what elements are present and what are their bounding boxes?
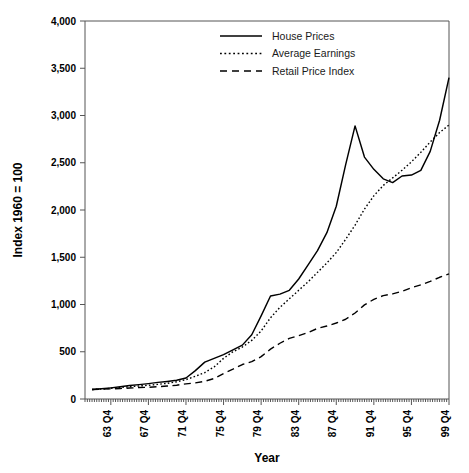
y-tick-label: 2,500: [51, 157, 76, 168]
y-tick-label: 0: [70, 394, 76, 405]
x-axis-title: Year: [254, 451, 280, 465]
y-axis-ticks: 05001,0001,5002,0002,5003,0003,5004,000: [51, 16, 85, 405]
chart-legend: House PricesAverage EarningsRetail Price…: [220, 30, 355, 77]
y-tick-label: 4,000: [51, 16, 76, 27]
x-tick-label: 95 Q4: [402, 410, 413, 438]
series-house-prices: [92, 78, 449, 390]
x-tick-label: 91 Q4: [365, 410, 376, 438]
y-axis-title: Index 1960 = 100: [11, 162, 25, 257]
line-chart: 05001,0001,5002,0002,5003,0003,5004,000 …: [0, 0, 469, 473]
x-tick-label: 71 Q4: [177, 410, 188, 438]
y-tick-label: 500: [59, 346, 76, 357]
x-axis-ticks: 63 Q467 Q471 Q475 Q479 Q483 Q487 Q491 Q4…: [85, 399, 451, 437]
y-tick-label: 2,000: [51, 205, 76, 216]
y-tick-label: 3,500: [51, 63, 76, 74]
data-series-group: [92, 78, 449, 390]
x-tick-label: 83 Q4: [290, 410, 301, 438]
x-tick-label: 79 Q4: [252, 410, 263, 438]
y-tick-label: 3,000: [51, 110, 76, 121]
x-tick-label: 99 Q4: [440, 410, 451, 438]
legend-label: Retail Price Index: [272, 65, 355, 77]
plot-frame: [85, 21, 449, 399]
legend-label: House Prices: [272, 30, 334, 42]
y-tick-label: 1,500: [51, 252, 76, 263]
x-tick-label: 67 Q4: [139, 410, 150, 438]
legend-label: Average Earnings: [272, 47, 355, 59]
y-tick-label: 1,000: [51, 299, 76, 310]
x-tick-label: 75 Q4: [215, 410, 226, 438]
chart-container: 05001,0001,5002,0002,5003,0003,5004,000 …: [0, 0, 469, 473]
x-tick-label: 63 Q4: [102, 410, 113, 438]
series-retail-price-index: [92, 274, 449, 390]
x-tick-label: 87 Q4: [327, 410, 338, 438]
